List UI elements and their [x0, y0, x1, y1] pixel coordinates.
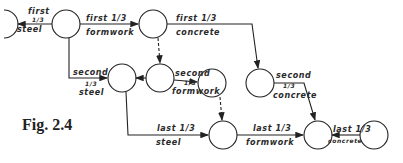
svg-text:concrete: concrete: [176, 28, 220, 37]
node-7: [209, 121, 237, 149]
network-diagram: first 1/3 steel first 1/3 formwork first…: [0, 0, 403, 163]
dummy-1: [158, 38, 160, 63]
svg-text:second: second: [276, 71, 311, 80]
svg-text:last 1/3: last 1/3: [253, 124, 291, 133]
svg-text:1/3: 1/3: [85, 80, 97, 87]
svg-text:last 1/3: last 1/3: [157, 124, 195, 133]
svg-text:concrete: concrete: [328, 137, 362, 144]
node-4: [146, 64, 174, 92]
node-1: [52, 10, 80, 38]
svg-text:formwork: formwork: [172, 87, 220, 96]
svg-text:formwork: formwork: [86, 28, 134, 37]
svg-text:second: second: [175, 69, 210, 78]
svg-text:formwork: formwork: [246, 138, 294, 147]
svg-text:steel: steel: [156, 138, 181, 147]
svg-text:1/3: 1/3: [283, 82, 295, 89]
svg-text:1/3: 1/3: [32, 16, 44, 23]
svg-text:second: second: [73, 68, 108, 77]
node-3: [108, 64, 136, 92]
node-2: [139, 10, 167, 38]
svg-text:first 1/3: first 1/3: [86, 14, 127, 23]
svg-text:last 1/3: last 1/3: [333, 125, 371, 134]
dummy-2: [220, 97, 222, 120]
svg-text:concrete: concrete: [273, 91, 317, 100]
node-6: [246, 69, 274, 97]
label-a1-1: first: [28, 7, 50, 16]
svg-text:steel: steel: [79, 88, 104, 97]
node-8: [304, 121, 332, 149]
svg-text:steel: steel: [17, 25, 42, 34]
svg-text:1/3: 1/3: [184, 79, 196, 86]
node-start: [4, 10, 18, 38]
svg-text:first 1/3: first 1/3: [176, 14, 217, 23]
figure-caption: Fig. 2.4: [22, 116, 72, 134]
